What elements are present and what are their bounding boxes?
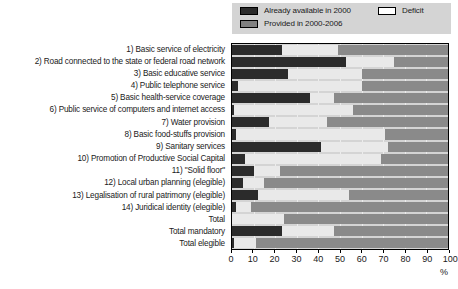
x-axis-tick	[296, 250, 297, 253]
bar-row	[232, 189, 448, 201]
x-axis-tick-label: 10	[248, 254, 258, 265]
x-axis-tick-label: 40	[313, 254, 323, 265]
bar-segment-already-available	[232, 166, 254, 176]
bar-segment-provided	[251, 202, 448, 212]
x-axis-tick-label: 0	[228, 254, 233, 265]
bar-segment-deficit	[243, 178, 265, 188]
category-label: Total	[0, 213, 228, 225]
category-label: Total mandatory	[0, 226, 228, 238]
bar-segment-provided	[353, 105, 448, 115]
bar-segment-deficit	[254, 166, 280, 176]
bar-segment-deficit	[288, 69, 361, 79]
bar-row	[232, 213, 448, 225]
legend-label-provided: Provided in 2000-2006	[264, 19, 342, 28]
bar-row	[232, 68, 448, 80]
bar-segment-provided	[362, 81, 448, 91]
stacked-bar	[232, 214, 448, 224]
bar-segment-provided	[362, 69, 448, 79]
legend-swatch-already-available	[240, 7, 258, 15]
category-label: 3) Basic educative service	[0, 67, 228, 79]
stacked-bar	[232, 93, 448, 103]
bar-segment-already-available	[232, 226, 282, 236]
x-axis-tick	[405, 250, 406, 253]
bar-segment-provided	[338, 45, 448, 55]
bar-segment-deficit	[236, 129, 385, 139]
bar-segment-deficit	[346, 57, 394, 67]
bar-segment-already-available	[232, 142, 321, 152]
bar-segment-provided	[349, 190, 448, 200]
stacked-bar	[232, 154, 448, 164]
x-axis-tick-label: 30	[291, 254, 301, 265]
bar-row	[232, 153, 448, 165]
category-label: 4) Public telephone service	[0, 80, 228, 92]
legend-item-provided: Provided in 2000-2006	[240, 19, 342, 28]
bar-segment-provided	[280, 166, 448, 176]
category-label: 2) Road connected to the state or federa…	[0, 55, 228, 67]
bar-segment-already-available	[232, 45, 282, 55]
legend-label-deficit: Deficit	[402, 6, 424, 15]
x-axis-tick-label: 100	[443, 254, 458, 265]
stacked-bar	[232, 81, 448, 91]
bar-row	[232, 141, 448, 153]
legend-item-deficit: Deficit	[378, 6, 424, 15]
x-axis-title: %	[440, 267, 448, 278]
category-axis-labels: 1) Basic service of electricity2) Road c…	[0, 43, 228, 250]
bar-row	[232, 225, 448, 237]
category-label: 5) Basic health-service coverage	[0, 92, 228, 104]
bar-segment-deficit	[234, 238, 256, 248]
bar-rows	[232, 44, 448, 249]
bar-segment-provided	[327, 117, 448, 127]
x-axis-tick	[383, 250, 384, 253]
x-axis-tick	[231, 250, 232, 253]
bar-segment-already-available	[232, 178, 243, 188]
bar-row	[232, 80, 448, 92]
bar-segment-provided	[394, 57, 448, 67]
category-label: 11) "Solid floor"	[0, 165, 228, 177]
bar-segment-already-available	[232, 57, 346, 67]
bar-segment-already-available	[232, 93, 310, 103]
bar-segment-already-available	[232, 117, 269, 127]
x-axis-tick-label: 60	[357, 254, 367, 265]
bar-row	[232, 44, 448, 56]
bar-row	[232, 128, 448, 140]
category-label: 1) Basic service of electricity	[0, 43, 228, 55]
bar-segment-deficit	[232, 214, 284, 224]
bar-segment-provided	[264, 178, 448, 188]
stacked-bar	[232, 166, 448, 176]
bar-row	[232, 116, 448, 128]
x-axis-tick	[318, 250, 319, 253]
bar-row	[232, 92, 448, 104]
category-label: 14) Juridical identity (elegible)	[0, 201, 228, 213]
bar-segment-provided	[284, 214, 448, 224]
bar-segment-deficit	[245, 154, 381, 164]
category-label: 7) Water provision	[0, 116, 228, 128]
stacked-bar	[232, 105, 448, 115]
bar-segment-deficit	[321, 142, 388, 152]
stacked-bar	[232, 142, 448, 152]
stacked-bar	[232, 190, 448, 200]
x-axis-tick-label: 80	[400, 254, 410, 265]
x-axis-tick-labels: 0102030405060708090100	[231, 254, 449, 266]
legend-swatch-deficit	[378, 7, 396, 15]
category-label: 12) Local urban planning (elegible)	[0, 177, 228, 189]
category-label: 6) Public service of computers and inter…	[0, 104, 228, 116]
bar-segment-already-available	[232, 154, 245, 164]
x-axis-tick	[252, 250, 253, 253]
bar-segment-provided	[256, 238, 448, 248]
category-label: 10) Promotion of Productive Social Capit…	[0, 153, 228, 165]
bar-segment-already-available	[232, 69, 288, 79]
stacked-bar	[232, 117, 448, 127]
x-axis-tick-label: 50	[335, 254, 345, 265]
legend-label-already-available: Already available in 2000	[264, 6, 351, 15]
stacked-bar	[232, 69, 448, 79]
category-label: 9) Sanitary services	[0, 140, 228, 152]
bar-row	[232, 165, 448, 177]
stacked-bar	[232, 129, 448, 139]
bar-segment-provided	[334, 93, 448, 103]
bar-segment-deficit	[236, 202, 251, 212]
x-axis-tick-label: 90	[422, 254, 432, 265]
x-axis-tick	[274, 250, 275, 253]
bar-segment-deficit	[238, 81, 361, 91]
bar-segment-deficit	[234, 105, 353, 115]
